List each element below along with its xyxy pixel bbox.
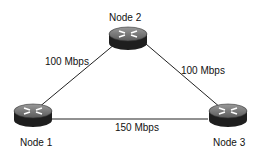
node2-label: Node 2 (109, 12, 141, 24)
node1-label: Node 1 (20, 137, 52, 149)
link-node1-node2 (38, 44, 115, 108)
router-icon (14, 104, 52, 127)
link-label-node2-node3: 100 Mbps (181, 65, 225, 77)
router-icon (209, 104, 247, 127)
router-icon (109, 27, 147, 50)
link-label-node1-node2: 100 Mbps (45, 56, 89, 68)
link-label-node1-node3: 150 Mbps (115, 122, 159, 134)
node3-label: Node 3 (213, 137, 245, 149)
